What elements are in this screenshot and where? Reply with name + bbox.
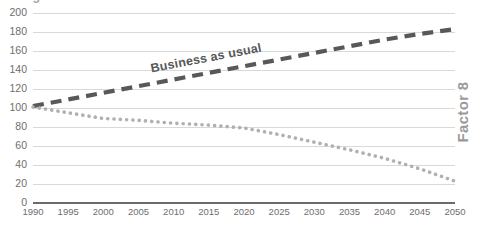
series-line-climate-change: [33, 107, 455, 181]
series-annotation-label: Climate change: [0, 0, 48, 3]
series-annotations: Business as usualClimate change: [0, 0, 263, 75]
y-axis-tick-label: 80: [15, 120, 27, 132]
chart-container: 020406080100120140160180200 199019952000…: [0, 0, 478, 230]
x-axis-tick-label: 2030: [304, 206, 325, 217]
x-axis-tick-label: 1995: [58, 206, 79, 217]
x-axis-tick-label: 2040: [374, 206, 395, 217]
y-axis-tick-label: 140: [9, 63, 27, 75]
x-axis-tick-label: 2045: [409, 206, 430, 217]
y-axis-tick-label: 160: [9, 44, 27, 56]
x-axis-tick-label: 2015: [198, 206, 219, 217]
y-axis-tick-label: 60: [15, 139, 27, 151]
y-axis-tick-label: 20: [15, 177, 27, 189]
x-axis-tick-label: 2005: [128, 206, 149, 217]
x-axis-tick-label: 2050: [444, 206, 465, 217]
y-axis-tick-labels: 020406080100120140160180200: [9, 6, 27, 208]
right-axis-title: Factor 8: [454, 82, 471, 143]
x-axis-tick-label: 2025: [269, 206, 290, 217]
y-axis-tick-label: 40: [15, 158, 27, 170]
y-axis-tick-label: 100: [9, 101, 27, 113]
series-line-business-as-usual: [33, 29, 455, 106]
line-chart: 020406080100120140160180200 199019952000…: [0, 0, 478, 230]
y-axis-tick-label: 180: [9, 25, 27, 37]
x-axis-tick-label: 2000: [93, 206, 114, 217]
right-axis-title-text: Factor 8: [454, 82, 471, 143]
x-axis-tick-labels: 1990199520002005201020152020202520302035…: [22, 206, 465, 217]
x-axis-tick-label: 1990: [22, 206, 43, 217]
y-axis-tick-label: 200: [9, 6, 27, 18]
x-axis-tick-label: 2020: [233, 206, 254, 217]
x-axis-tick-label: 2035: [339, 206, 360, 217]
x-axis-tick-label: 2010: [163, 206, 184, 217]
y-axis-tick-label: 120: [9, 82, 27, 94]
